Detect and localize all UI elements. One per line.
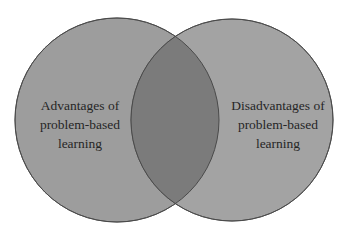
left-label-line-3: learning: [20, 134, 140, 153]
left-set-label: Advantages of problem-based learning: [20, 96, 140, 153]
left-label-line-1: Advantages of: [20, 96, 140, 115]
right-label-line-1: Disadvantages of: [218, 96, 338, 115]
right-label-line-3: learning: [218, 134, 338, 153]
right-set-label: Disadvantages of problem-based learning: [218, 96, 338, 153]
right-label-line-2: problem-based: [218, 115, 338, 134]
left-label-line-2: problem-based: [20, 115, 140, 134]
